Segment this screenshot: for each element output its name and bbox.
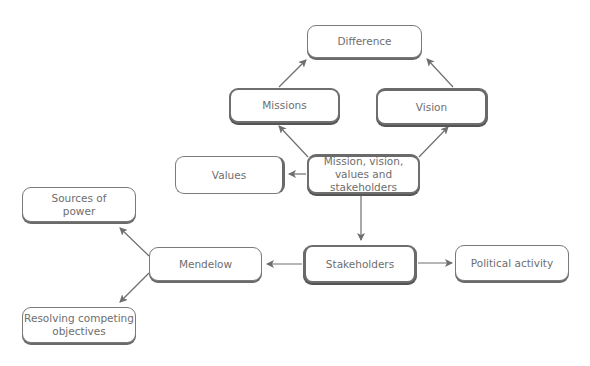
node-stakeholders: Stakeholders: [303, 245, 417, 283]
node-sources-line1: Sources of: [52, 192, 107, 205]
node-difference-label: Difference: [337, 35, 391, 48]
node-stakeholders-label: Stakeholders: [326, 258, 394, 271]
node-vision: Vision: [376, 88, 488, 125]
edge-vision-difference: [427, 59, 453, 87]
edge-center-missions: [279, 126, 308, 157]
node-vision-label: Vision: [416, 101, 447, 114]
node-political-label: Political activity: [471, 257, 553, 270]
diagram-canvas: Difference Missions Vision Mission, visi…: [0, 0, 590, 366]
edge-missions-difference: [279, 60, 306, 87]
node-values: Values: [175, 156, 285, 194]
node-mission-vision-values-stakeholders: Mission, vision, values and stakeholders: [307, 154, 420, 194]
node-mendelow: Mendelow: [149, 247, 262, 281]
node-difference: Difference: [307, 25, 422, 58]
node-political-activity: Political activity: [455, 245, 569, 281]
edge-center-vision: [419, 127, 448, 157]
node-sources-line2: power: [63, 205, 95, 218]
edge-mendelow-sources: [120, 228, 149, 256]
node-values-label: Values: [212, 169, 246, 182]
node-sources-of-power: Sources of power: [22, 187, 136, 222]
node-resolving-line1: Resolving competing: [24, 312, 134, 325]
node-mendelow-label: Mendelow: [179, 258, 232, 271]
node-center-line2: values and stakeholders: [309, 168, 418, 194]
node-center-line1: Mission, vision,: [324, 155, 404, 168]
edge-mendelow-resolving: [120, 273, 149, 302]
node-missions-label: Missions: [262, 99, 306, 112]
node-resolving-competing-objectives: Resolving competing objectives: [22, 307, 136, 343]
node-missions: Missions: [229, 88, 340, 123]
node-resolving-line2: objectives: [52, 325, 105, 338]
